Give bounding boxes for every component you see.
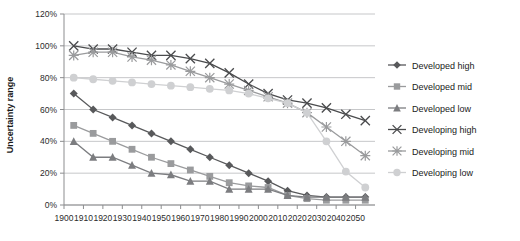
x-axis-tick-label: 1990 [229, 213, 248, 223]
y-axis-tick-label: 0% [45, 200, 58, 210]
x-axis-tick-label: 2020 [288, 213, 307, 223]
data-point-circle [323, 137, 331, 145]
data-point-circle [206, 85, 214, 93]
data-point-star [205, 73, 215, 83]
legend-label: Developed low [412, 104, 472, 114]
data-point-square [148, 154, 155, 161]
y-axis-tick-label: 40% [40, 136, 57, 146]
data-point-star [127, 52, 137, 62]
x-axis-tick-label: 1920 [93, 213, 112, 223]
y-axis-tick-label: 100% [35, 41, 57, 51]
x-axis-tick-label: 1910 [74, 213, 93, 223]
x-axis-tick-label: 2030 [307, 213, 326, 223]
data-point-circle [342, 168, 350, 176]
x-axis-tick-label: 1980 [210, 213, 229, 223]
data-point-circle [109, 77, 117, 85]
data-point-circle [186, 83, 194, 91]
data-point-square [129, 146, 136, 153]
data-point-star [88, 47, 98, 57]
legend-label: Developing mid [412, 147, 474, 157]
x-axis-tick-label: 2010 [268, 213, 287, 223]
x-axis-tick-label: 1960 [171, 213, 190, 223]
x-axis-tick-label: 1900 [55, 213, 74, 223]
data-point-star [146, 55, 156, 65]
data-point-square [187, 167, 194, 174]
data-point-star [185, 66, 195, 76]
x-axis-tick-label: 1940 [132, 213, 151, 223]
data-point-square [90, 130, 97, 137]
data-point-circle [393, 169, 400, 176]
data-point-star [69, 50, 79, 60]
data-point-star [392, 146, 402, 156]
legend-label: Developing low [412, 168, 474, 178]
chart-container: 0%20%40%60%80%100%120% 19001910192019301… [0, 0, 520, 241]
data-point-square [109, 138, 116, 145]
y-axis-tick-label: 80% [40, 73, 57, 83]
x-axis-tick-label: 2040 [327, 213, 346, 223]
data-point-star [321, 122, 331, 132]
data-point-square [394, 83, 400, 89]
data-point-circle [225, 87, 233, 95]
data-point-star [360, 151, 370, 161]
legend-item-developing-mid[interactable]: Developing mid [388, 146, 474, 156]
data-point-star [166, 60, 176, 70]
y-axis-title: Uncertainty range [5, 77, 15, 154]
data-point-circle [284, 99, 292, 107]
x-axis-tick-label: 1970 [191, 213, 210, 223]
legend-label: Developed mid [412, 82, 472, 92]
data-point-square [168, 160, 175, 167]
x-axis-tick-label: 1950 [152, 213, 171, 223]
data-point-circle [245, 90, 253, 98]
data-point-circle [264, 94, 272, 102]
legend-label: Developing high [412, 125, 477, 135]
x-axis-tick-label: 1930 [113, 213, 132, 223]
data-point-circle [89, 75, 97, 83]
legend-label: Developed high [412, 61, 475, 71]
y-axis-tick-label: 20% [40, 168, 57, 178]
data-point-star [108, 47, 118, 57]
y-axis-tick-label: 120% [35, 9, 57, 19]
data-point-square [70, 122, 77, 129]
x-axis-tick-label: 2050 [346, 213, 365, 223]
line-chart: 0%20%40%60%80%100%120% 19001910192019301… [0, 0, 520, 241]
data-point-star [341, 136, 351, 146]
data-point-circle [361, 184, 369, 192]
x-axis-tick-labels: 1900191019201930194019501960197019801990… [55, 213, 366, 223]
x-axis-tick-label: 2000 [249, 213, 268, 223]
data-point-circle [70, 74, 78, 82]
data-point-circle [303, 109, 311, 117]
data-point-circle [128, 79, 136, 87]
data-point-circle [167, 82, 175, 90]
y-axis-tick-label: 60% [40, 105, 57, 115]
data-point-circle [148, 80, 156, 88]
